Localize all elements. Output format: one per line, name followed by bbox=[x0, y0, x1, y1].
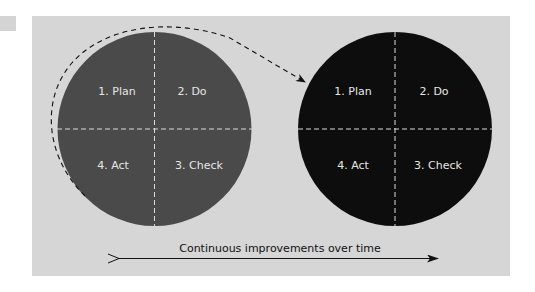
timeline-label: Continuous improvements over time bbox=[179, 242, 381, 255]
quadrant-act: 4. Act bbox=[97, 159, 129, 172]
quadrant-do: 2. Do bbox=[419, 85, 448, 98]
pdca-circle-before: 1. Plan 2. Do 3. Check 4. Act bbox=[57, 32, 252, 226]
quadrant-act: 4. Act bbox=[337, 159, 369, 172]
arrow-tail-icon bbox=[108, 254, 119, 263]
quadrant-check: 3. Check bbox=[175, 159, 223, 172]
timeline-arrow: Continuous improvements over time bbox=[108, 242, 438, 263]
quadrant-do: 2. Do bbox=[177, 85, 206, 98]
quadrant-check: 3. Check bbox=[414, 159, 462, 172]
quadrant-plan: 1. Plan bbox=[334, 85, 371, 98]
pdca-circle-after: 1. Plan 2. Do 3. Check 4. Act bbox=[298, 32, 492, 226]
quadrant-plan: 1. Plan bbox=[98, 85, 135, 98]
pdca-diagram: 1. Plan 2. Do 3. Check 4. Act 1. Plan 2.… bbox=[0, 0, 535, 292]
